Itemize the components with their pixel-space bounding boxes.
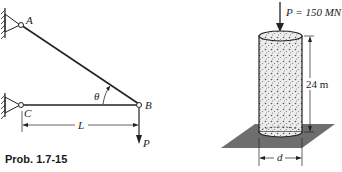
wall-support-c <box>1 93 20 119</box>
label-diameter: d <box>277 151 283 163</box>
label-height: 24 m <box>306 78 329 90</box>
label-c: C <box>24 107 32 119</box>
label-l: L <box>77 119 84 131</box>
pin-b <box>137 103 142 108</box>
load-arrow-p <box>136 108 142 144</box>
concrete-column <box>259 31 302 137</box>
pin-c <box>19 103 24 108</box>
label-p: P <box>142 137 150 149</box>
label-a: A <box>25 14 33 26</box>
figure-canvas: θ A C B L P P = 150 MN <box>0 0 342 172</box>
load-arrow-150mn <box>276 2 284 32</box>
pin-a <box>19 23 24 28</box>
bar-ab <box>21 25 139 104</box>
label-b: B <box>145 99 152 111</box>
label-theta: θ <box>94 90 100 102</box>
problem-caption: Prob. 1.7-15 <box>5 153 67 165</box>
label-load: P = 150 MN <box>285 6 342 18</box>
wall-support-a <box>1 8 20 39</box>
